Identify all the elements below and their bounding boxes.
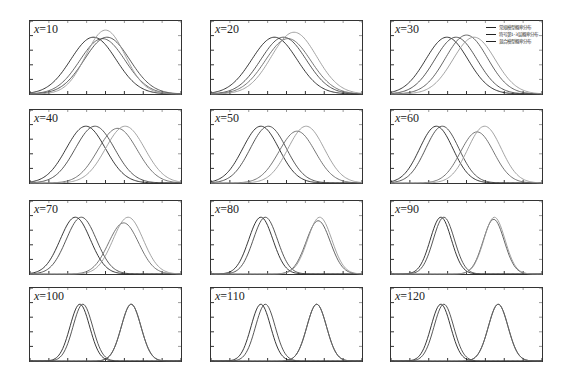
panel-label: x=70 (34, 202, 58, 217)
panel-label: x=40 (34, 111, 58, 126)
legend-entry: 符号第1-3层概率分布 (486, 31, 538, 38)
distribution-curve-1 (30, 37, 181, 94)
legend-label: 常规模型概率分布 (499, 24, 531, 31)
distribution-curve-4 (211, 304, 362, 361)
distribution-curve-1 (391, 304, 542, 361)
legend-line-icon (486, 34, 496, 36)
distribution-curve-3 (391, 132, 542, 183)
distribution-curve-2 (211, 304, 362, 361)
distribution-curve-2 (30, 304, 181, 361)
chart-panel-x110: x=110 (210, 287, 363, 362)
distribution-curve-4 (30, 30, 181, 94)
distribution-curve-4 (391, 37, 542, 94)
panel-label: x=50 (215, 111, 239, 126)
legend-label: 符号第1-3层概率分布 (499, 31, 538, 38)
distribution-curve-3 (391, 219, 542, 274)
distribution-curve-1 (391, 37, 542, 94)
legend-line-icon (486, 41, 496, 43)
distribution-curve-3 (211, 304, 362, 361)
chart-panel-x120: x=120 (390, 287, 543, 362)
panel-label: x=110 (215, 289, 245, 304)
distribution-curve-2 (391, 37, 542, 94)
distribution-curve-1 (391, 126, 542, 183)
distribution-curve-4 (30, 126, 181, 183)
panel-label: x=60 (395, 111, 419, 126)
distribution-curve-1 (30, 304, 181, 361)
chart-panel-x50: x=50 (210, 109, 363, 184)
distribution-curve-2 (30, 39, 181, 94)
legend-label: 混合模型概率分布 (499, 38, 531, 45)
distribution-curve-1 (211, 304, 362, 361)
distribution-curve-4 (211, 32, 362, 94)
distribution-curve-1 (30, 126, 181, 183)
panel-label: x=30 (395, 22, 419, 37)
panel-label: x=80 (215, 202, 239, 217)
panel-label: x=90 (395, 202, 419, 217)
chart-panel-x100: x=100 (29, 287, 182, 362)
distribution-curve-2 (211, 126, 362, 183)
legend-entry: 常规模型概率分布 (486, 24, 538, 31)
distribution-curve-2 (30, 126, 181, 183)
distribution-curve-3 (30, 128, 181, 183)
chart-panel-x20: x=20 (210, 20, 363, 95)
chart-panel-x40: x=40 (29, 109, 182, 184)
distribution-curve-2 (391, 304, 542, 361)
distribution-curve-4 (30, 304, 181, 361)
distribution-curve-3 (211, 221, 362, 274)
panel-label: x=120 (395, 289, 425, 304)
distribution-curve-4 (30, 217, 181, 274)
panel-label: x=100 (34, 289, 64, 304)
distribution-curve-4 (391, 217, 542, 274)
chart-panel-x70: x=70 (29, 200, 182, 275)
distribution-curve-3 (30, 37, 181, 94)
chart-panel-x10: x=10 (29, 20, 182, 95)
distribution-curve-1 (30, 217, 181, 274)
distribution-curve-4 (391, 126, 542, 183)
legend: 常规模型概率分布符号第1-3层概率分布混合模型概率分布 (486, 24, 538, 45)
distribution-curve-4 (211, 217, 362, 274)
distribution-curve-1 (391, 217, 542, 274)
panel-label: x=10 (34, 22, 58, 37)
chart-panel-x30: x=30常规模型概率分布符号第1-3层概率分布混合模型概率分布 (390, 20, 543, 95)
chart-panel-x80: x=80 (210, 200, 363, 275)
distribution-curve-1 (211, 217, 362, 274)
distribution-curve-2 (391, 217, 542, 274)
legend-line-icon (486, 27, 496, 29)
distribution-curve-2 (30, 217, 181, 274)
distribution-curve-2 (211, 217, 362, 274)
distribution-curve-3 (211, 131, 362, 183)
distribution-curve-3 (391, 304, 542, 361)
panel-label: x=20 (215, 22, 239, 37)
distribution-curve-4 (391, 304, 542, 361)
chart-panel-x90: x=90 (390, 200, 543, 275)
chart-panel-x60: x=60 (390, 109, 543, 184)
distribution-curve-3 (30, 304, 181, 361)
legend-entry: 混合模型概率分布 (486, 38, 538, 45)
distribution-curve-2 (391, 126, 542, 183)
